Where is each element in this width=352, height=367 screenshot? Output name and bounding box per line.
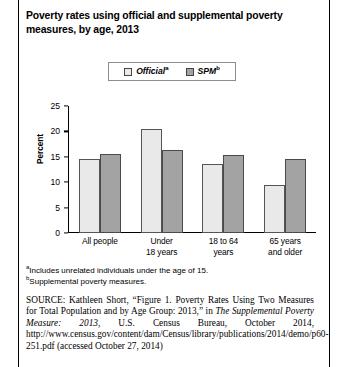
bar-group (254, 106, 316, 233)
source-label: SOURCE: (26, 295, 65, 305)
x-axis-label-3: 65 yearsand older (254, 236, 316, 257)
bar-series-container (69, 106, 316, 233)
y-axis-ticks: 0510152025 (38, 100, 64, 233)
bar-spm-1 (162, 150, 183, 233)
y-axis-tick-label: 10 (50, 178, 60, 187)
y-axis-tick-mark (64, 207, 68, 208)
bar-official-2 (202, 164, 223, 233)
footnote-marker: a (26, 264, 29, 270)
legend-swatch-official-icon (124, 68, 132, 76)
y-axis-tick-mark (64, 156, 68, 157)
bar-spm-2 (223, 155, 244, 233)
y-axis-tick-label: 15 (50, 153, 60, 162)
y-axis-tick-label: 0 (55, 229, 60, 238)
legend-swatch-spm-icon (186, 68, 194, 76)
y-axis-tick-mark (64, 182, 68, 183)
legend-item-spm: SPMb (186, 67, 220, 76)
y-axis-tick-label: 25 (50, 102, 60, 111)
x-axis-label-1: Under18 years (131, 236, 193, 257)
figure-container: Poverty rates using official and supplem… (26, 0, 326, 367)
bar-official-1 (141, 129, 162, 233)
y-axis-tick-mark (64, 131, 68, 132)
bar-official-3 (264, 185, 285, 233)
footnote-marker: b (26, 275, 29, 281)
bar-official-0 (79, 159, 100, 233)
chart-legend: Officiala SPMb (108, 62, 236, 81)
footnote-b: bSupplemental poverty measures. (26, 277, 316, 288)
x-axis-label-2: 18 to 64years (193, 236, 255, 257)
legend-label-official: Officiala (136, 67, 168, 76)
bar-group (131, 106, 193, 233)
x-axis-label-0: All people (69, 236, 131, 257)
bar-group (69, 106, 131, 233)
footnote-a: aIncludes unrelated individuals under th… (26, 266, 316, 277)
footnotes: aIncludes unrelated individuals under th… (26, 266, 316, 287)
figure-title: Poverty rates using official and supplem… (26, 9, 302, 37)
x-axis-labels: All peopleUnder18 years18 to 64years65 y… (69, 236, 316, 257)
y-axis-tick-mark (64, 232, 68, 233)
y-axis-tick-label: 20 (50, 127, 60, 136)
bar-group (193, 106, 255, 233)
y-axis-tick-label: 5 (55, 203, 60, 212)
y-axis-tick-mark (64, 105, 68, 106)
legend-label-spm: SPMb (198, 67, 220, 76)
chart-plot-area: Percent 0510152025 All peopleUnder18 yea… (26, 100, 318, 240)
bar-spm-0 (100, 154, 121, 233)
bar-spm-3 (285, 159, 306, 233)
legend-item-official: Officiala (124, 67, 168, 76)
source-note: SOURCE: Kathleen Short, “Figure 1. Pover… (26, 295, 314, 352)
